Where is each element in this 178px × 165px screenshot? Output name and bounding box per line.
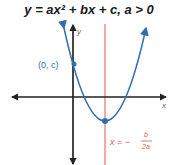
y-axis-label: y [76, 27, 82, 36]
parabola-diagram: y = ax² + bx + c, a > 0 y x (0, c) x = −… [0, 0, 178, 165]
symmetry-label-prefix: x = − [109, 137, 130, 147]
symmetry-label-denominator: 2a [141, 143, 150, 150]
x-axis-label: x [161, 101, 167, 110]
symmetry-label-numerator: b [144, 131, 148, 138]
graph: y x (0, c) x = − b 2a [0, 0, 178, 165]
vertex-point [102, 118, 108, 124]
y-intercept-point [72, 62, 77, 67]
y-intercept-label: (0, c) [38, 60, 59, 70]
